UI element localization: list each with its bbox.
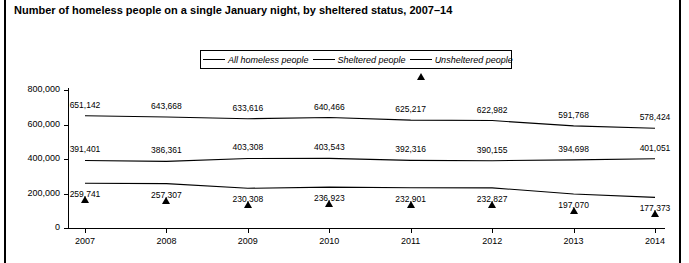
data-point-label: 401,051 — [627, 143, 683, 153]
y-axis-tick — [64, 90, 68, 91]
data-point-label: 625,217 — [383, 104, 439, 114]
x-axis-tick — [574, 229, 575, 233]
chart-page: Number of homeless people on a single Ja… — [0, 0, 689, 263]
x-axis-tick — [655, 229, 656, 233]
series-line — [85, 158, 655, 161]
y-axis-tick-label: 200,000 — [4, 188, 60, 198]
data-point-label: 230,308 — [220, 194, 276, 204]
data-point-label: 651,142 — [57, 100, 113, 110]
x-axis-tick-label: 2014 — [633, 236, 677, 246]
data-point-label: 578,424 — [627, 112, 683, 122]
data-point-label: 197,070 — [546, 200, 602, 210]
plot-area: 800,000600,000400,000200,000020072008200… — [0, 0, 689, 263]
x-axis-tick-label: 2010 — [307, 236, 351, 246]
data-point-label: 257,307 — [138, 190, 194, 200]
x-axis-tick — [411, 229, 412, 233]
x-axis-tick-label: 2007 — [63, 236, 107, 246]
y-axis-tick-label: 400,000 — [4, 153, 60, 163]
data-point-label: 390,155 — [464, 145, 520, 155]
data-point-label: 622,982 — [464, 105, 520, 115]
x-axis-tick — [248, 229, 249, 233]
series-lines — [0, 0, 689, 263]
y-axis-tick-label: 800,000 — [4, 84, 60, 94]
x-axis-tick-label: 2013 — [552, 236, 596, 246]
y-axis-tick — [64, 125, 68, 126]
y-axis-tick — [64, 228, 68, 229]
data-point-label: 232,901 — [383, 194, 439, 204]
x-axis-tick — [85, 229, 86, 233]
x-axis-tick-label: 2008 — [144, 236, 188, 246]
data-point-label: 643,668 — [138, 101, 194, 111]
y-axis-tick-label: 600,000 — [4, 119, 60, 129]
x-axis-tick — [329, 229, 330, 233]
data-point-label: 392,316 — [383, 144, 439, 154]
data-point-label: 259,741 — [57, 189, 113, 199]
data-point-label: 236,923 — [301, 193, 357, 203]
data-point-label: 177,373 — [627, 203, 683, 213]
x-axis-tick-label: 2009 — [226, 236, 270, 246]
data-point-label: 386,361 — [138, 145, 194, 155]
data-point-label: 232,827 — [464, 194, 520, 204]
data-point-label: 394,698 — [546, 144, 602, 154]
x-axis-tick — [166, 229, 167, 233]
x-axis-tick-label: 2011 — [389, 236, 433, 246]
data-point-label: 591,768 — [546, 110, 602, 120]
data-point-label: 403,543 — [301, 142, 357, 152]
data-point-label: 403,308 — [220, 142, 276, 152]
x-axis-tick-label: 2012 — [470, 236, 514, 246]
y-axis-tick — [64, 159, 68, 160]
y-axis-tick-label: 0 — [4, 222, 60, 232]
data-point-label: 640,466 — [301, 102, 357, 112]
data-point-label: 633,616 — [220, 103, 276, 113]
x-axis-tick — [492, 229, 493, 233]
data-point-label: 391,401 — [57, 144, 113, 154]
